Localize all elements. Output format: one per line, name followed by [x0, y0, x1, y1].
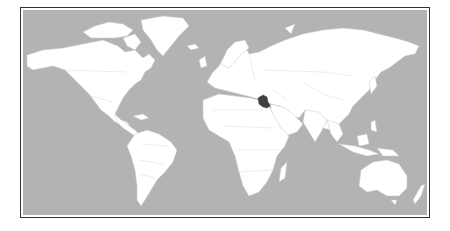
world-map-svg	[23, 10, 427, 215]
borneo	[357, 134, 369, 146]
world-map	[23, 10, 427, 215]
map-frame	[20, 7, 430, 218]
